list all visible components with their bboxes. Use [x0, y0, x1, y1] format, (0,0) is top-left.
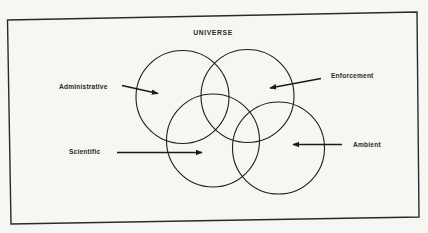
universe-frame [8, 12, 420, 224]
enforcement-circle [201, 50, 294, 143]
enforcement-arrow-icon [270, 79, 321, 89]
administrative-arrow-icon [122, 86, 158, 94]
scientific-label: Scientific [69, 148, 100, 155]
venn-diagram: UNIVERSE Administrative Enforcement Scie… [0, 0, 428, 233]
scientific-circle [167, 94, 260, 187]
enforcement-label: Enforcement [331, 72, 374, 79]
universe-title: UNIVERSE [193, 29, 233, 36]
ambient-circle [233, 102, 325, 194]
ambient-label: Ambient [353, 141, 381, 148]
administrative-label: Administrative [59, 83, 108, 90]
